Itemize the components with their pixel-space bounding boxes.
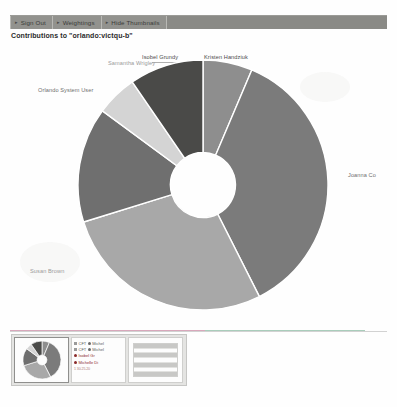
sign-out-label: Sign Out — [21, 19, 46, 26]
hide-thumbnails-button[interactable]: ▸ Hide Thumbnails — [102, 16, 167, 29]
page-title: Contributions to "orlando:victqu-b" — [11, 32, 133, 39]
swatch-icon — [74, 342, 77, 345]
legend-text: Michelle Di — [79, 360, 99, 365]
legend-text: Michel — [92, 347, 104, 352]
legend-prefix: CFT — [79, 347, 87, 352]
arrow-right-icon: ▸ — [15, 20, 18, 25]
pie-thumbnail-svg — [23, 341, 61, 379]
pie-chart-svg[interactable] — [78, 60, 328, 310]
legend-text: Isobel Gr — [79, 353, 95, 358]
sign-out-button[interactable]: ▸ Sign Out — [10, 16, 53, 29]
table-row — [134, 372, 177, 376]
arrow-right-icon: ▸ — [106, 20, 109, 25]
pie-slice-label: Orlando System User — [38, 87, 93, 93]
table-thumbnail-grid — [133, 343, 178, 377]
thumbnail-divider — [10, 331, 387, 332]
pie-slice-label: Samantha Wrigley — [108, 60, 155, 66]
weightings-button[interactable]: ▸ Weightings — [53, 16, 102, 29]
pie-slice-label: Susan Brown — [30, 268, 64, 274]
thumbnail-strip: CFT Michel CFT Michel Isobel Gr Michelle — [11, 334, 187, 386]
hide-thumbnails-label: Hide Thumbnails — [111, 19, 160, 26]
pie-chart[interactable] — [78, 60, 328, 310]
document-page: ▸ Sign Out ▸ Weightings ▸ Hide Thumbnail… — [0, 0, 397, 407]
list-item: CFT Michel — [74, 347, 123, 352]
scan-artifact — [20, 242, 80, 282]
legend-text: Michel — [92, 341, 104, 346]
legend-thumbnail-list: CFT Michel CFT Michel Isobel Gr Michelle — [74, 341, 123, 380]
list-item: Michelle Di — [74, 360, 123, 365]
list-item: CFT Michel — [74, 341, 123, 346]
weightings-label: Weightings — [63, 19, 95, 26]
toolbar-spacer — [167, 16, 387, 29]
chart-area: Kristen HandziukIsobel GrundySamantha Wr… — [0, 42, 397, 328]
pie-thumbnail[interactable] — [14, 337, 69, 383]
legend-stamp: 1 30.25.20 — [74, 367, 123, 371]
dot-icon — [74, 361, 77, 364]
swatch-icon — [74, 348, 77, 351]
legend-thumbnail[interactable]: CFT Michel CFT Michel Isobel Gr Michelle — [71, 337, 126, 383]
dot-icon — [88, 348, 91, 351]
dot-icon — [74, 354, 77, 357]
arrow-right-icon: ▸ — [57, 20, 60, 25]
pie-slice-label: Joanna Co — [348, 172, 376, 178]
list-item: Isobel Gr — [74, 353, 123, 358]
toolbar: ▸ Sign Out ▸ Weightings ▸ Hide Thumbnail… — [10, 15, 387, 29]
legend-prefix: CFT — [79, 341, 87, 346]
pie-slice-label: Kristen Handziuk — [204, 54, 248, 60]
dot-icon — [88, 342, 91, 345]
table-thumbnail[interactable] — [128, 337, 183, 383]
